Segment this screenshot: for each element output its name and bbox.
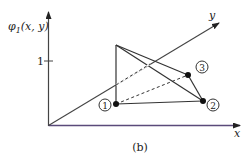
node-3-label: 3 (199, 63, 205, 73)
phi-axis-label: φ1(x, y) (8, 20, 49, 35)
node-3-dot (185, 72, 191, 78)
edge-node1-node3-dashed (116, 75, 188, 104)
edge-node3-node2 (188, 75, 203, 101)
y-axis-label: y (208, 9, 216, 22)
node-1-dot (113, 101, 119, 107)
node-1-label: 1 (102, 101, 108, 111)
x-axis-label: x (234, 127, 241, 140)
edge-node1-node2 (116, 101, 203, 104)
shape-function-diagram: 1 φ1(x, y) x y 1 2 3 (b) (0, 0, 251, 159)
node-2-dot (200, 98, 206, 104)
figure-caption: (b) (132, 141, 148, 154)
edge-apex-node3 (116, 45, 188, 75)
node-2-label: 2 (210, 101, 216, 111)
tick-label-1: 1 (37, 55, 44, 68)
